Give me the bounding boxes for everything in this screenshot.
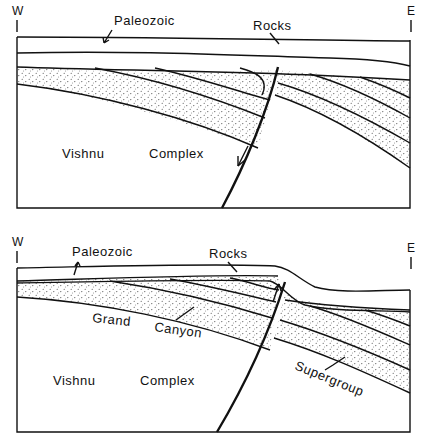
leader-line (270, 33, 279, 44)
label-vishnu: Vishnu (53, 373, 96, 388)
label-rocks: Rocks (253, 18, 292, 33)
label-rocks: Rocks (209, 246, 248, 261)
label-complex: Complex (140, 373, 195, 388)
panel-before-faulting: W E Paleozoic Rocks (12, 4, 415, 208)
paleozoic-base-line (17, 52, 410, 66)
panel-after-faulting: W E Paleozoic (12, 235, 415, 432)
label-complex: Complex (149, 146, 204, 161)
label-paleozoic: Paleozoic (72, 244, 133, 259)
label-vishnu: Vishnu (62, 146, 105, 161)
leader-arrow-icon (103, 30, 112, 43)
label-paleozoic: Paleozoic (114, 13, 175, 28)
leader-line (228, 262, 237, 272)
east-label: E (407, 4, 415, 18)
west-label: W (12, 235, 24, 249)
label-grand: Grand (92, 310, 132, 329)
east-label: E (407, 241, 415, 255)
geologic-cross-section-figure: W E Paleozoic Rocks (0, 0, 425, 443)
paleozoic-top-line (17, 37, 410, 41)
west-label: W (12, 4, 24, 18)
leader-arrow-icon (74, 262, 80, 275)
